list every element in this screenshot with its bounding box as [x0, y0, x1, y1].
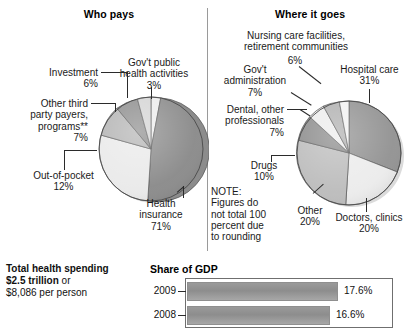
- gdp-chart-title: Share of GDP: [150, 263, 270, 275]
- right-label-hospital: Hospital care 31%: [330, 64, 409, 87]
- left-label-other-third-party-value: 7%: [74, 132, 88, 143]
- total-spending-block: Total health spending $2.5 trillion or $…: [6, 263, 146, 299]
- left-label-investment-name: Investment: [49, 67, 98, 78]
- left-label-investment-value: 6%: [84, 78, 98, 89]
- leader-doctors: [366, 198, 367, 212]
- leader-nursing: [299, 66, 322, 84]
- leader-dental-h: [287, 109, 307, 110]
- leader-drugs-v: [271, 155, 272, 162]
- right-label-dental: Dental, other professionals 7%: [205, 104, 284, 138]
- leader-other-third-party-h: [91, 103, 116, 104]
- left-label-health-insurance: Health insurance 71%: [124, 198, 198, 232]
- gdp-tick-2008: [178, 315, 186, 316]
- right-label-gov-admin-line2: administration: [224, 75, 286, 86]
- who-pays-pie: [95, 92, 209, 206]
- right-label-dental-line2: professionals: [225, 115, 284, 126]
- chart-note-line3: not total 100: [211, 209, 266, 220]
- left-label-out-of-pocket-value: 12%: [53, 181, 73, 192]
- leader-out-of-pocket-v: [64, 150, 65, 170]
- chart-note: NOTE: Figures do not total 100 percent d…: [211, 186, 281, 242]
- total-spending-title: Total health spending: [6, 263, 109, 274]
- leader-gov-public-health: [151, 87, 152, 99]
- right-label-other-value: 20%: [300, 216, 320, 227]
- right-label-doctors: Doctors, clinics 20%: [329, 212, 409, 235]
- right-label-other: Other 20%: [288, 205, 332, 228]
- left-label-other-third-party: Other third party payers, programs** 7%: [2, 98, 88, 144]
- right-label-hospital-value: 31%: [359, 75, 379, 86]
- chart-note-line1: NOTE:: [211, 186, 242, 197]
- chart-note-line2: Figures do: [211, 197, 258, 208]
- gdp-row-year-2008: 2008: [144, 309, 176, 320]
- chart-note-line4: percent due: [211, 220, 264, 231]
- left-label-other-third-party-line1: Other third: [41, 98, 88, 109]
- right-label-drugs: Drugs 10%: [237, 160, 291, 183]
- where-it-goes-pie: [293, 95, 409, 213]
- right-label-gov-admin: Gov't administration 7%: [213, 64, 297, 98]
- left-label-other-third-party-line3: programs**: [38, 121, 88, 132]
- right-label-doctors-value: 20%: [359, 223, 379, 234]
- right-label-nursing-line2: retirement communities: [244, 41, 348, 52]
- right-label-doctors-name: Doctors, clinics: [335, 212, 402, 223]
- left-label-out-of-pocket-name: Out-of-pocket: [33, 170, 94, 181]
- gdp-tick-2009: [178, 291, 186, 292]
- leader-out-of-pocket-h: [64, 150, 97, 151]
- gdp-row-year-2009: 2009: [144, 285, 176, 296]
- right-label-nursing: Nursing care facilities, retirement comm…: [222, 30, 370, 53]
- left-label-out-of-pocket: Out-of-pocket 12%: [16, 170, 111, 193]
- left-label-health-insurance-line1: Health: [147, 198, 176, 209]
- total-spending-per-person: $8,086 per person: [6, 287, 87, 298]
- left-label-investment: Investment 6%: [18, 67, 98, 90]
- right-label-dental-line1: Dental, other: [227, 104, 284, 115]
- left-label-gov-public-health-line2: health activities: [120, 68, 188, 79]
- chart-note-line5: to rounding: [211, 231, 261, 242]
- left-chart-title: Who pays: [34, 8, 184, 20]
- right-chart-title: Where it goes: [230, 8, 390, 20]
- gdp-value-2009: 17.6%: [344, 285, 372, 296]
- gdp-bar-2009: [187, 282, 338, 301]
- left-label-gov-public-health-line1: Gov't public: [128, 57, 180, 68]
- right-label-dental-value: 7%: [270, 127, 284, 138]
- infographic-root: Who pays: [0, 0, 409, 336]
- leader-other-third-party-v: [115, 103, 116, 112]
- gdp-value-2008: 16.6%: [336, 309, 364, 320]
- right-label-drugs-value: 10%: [254, 171, 274, 182]
- total-spending-or: or: [59, 275, 71, 286]
- right-label-nursing-line1: Nursing care facilities,: [247, 30, 345, 41]
- left-label-gov-public-health: Gov't public health activities 3%: [106, 57, 202, 91]
- right-label-gov-admin-line1: Gov't: [243, 64, 266, 75]
- right-label-hospital-name: Hospital care: [340, 64, 398, 75]
- leader-investment-v: [127, 72, 128, 98]
- left-label-other-third-party-line2: party payers,: [30, 109, 88, 120]
- right-label-gov-admin-value: 7%: [248, 87, 262, 98]
- leader-hospital: [369, 89, 370, 103]
- leader-drugs-h: [271, 155, 295, 156]
- leader-investment-h: [101, 72, 128, 73]
- right-label-drugs-name: Drugs: [251, 160, 278, 171]
- right-label-other-name: Other: [297, 205, 322, 216]
- total-spending-amount: $2.5 trillion: [6, 275, 59, 286]
- left-label-gov-public-health-value: 3%: [147, 80, 161, 91]
- gdp-bar-2008: [187, 306, 330, 325]
- left-label-health-insurance-line2: insurance: [139, 209, 182, 220]
- left-label-health-insurance-value: 71%: [151, 221, 171, 232]
